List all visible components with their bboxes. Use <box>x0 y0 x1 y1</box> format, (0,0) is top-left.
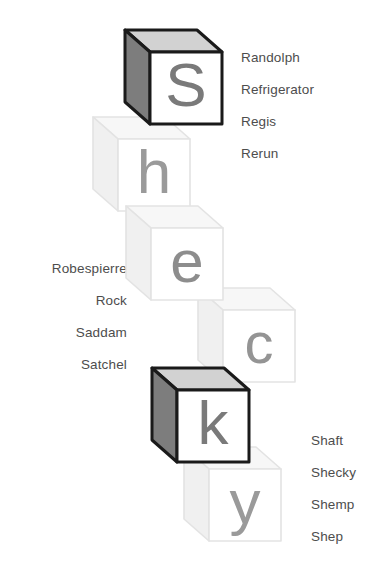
letter-block-s: S <box>125 30 225 130</box>
word-item: Regis <box>241 106 314 138</box>
word-item: Saddam <box>0 317 127 349</box>
block-letter: S <box>165 50 206 119</box>
block-letter: y <box>230 467 261 536</box>
word-item: Randolph <box>241 42 314 74</box>
letter-block-k: k <box>152 368 252 468</box>
word-item: Shep <box>311 521 356 553</box>
word-item: Robespierre <box>0 253 127 285</box>
block-letter: k <box>198 388 230 457</box>
word-list-r-names: RandolphRefrigeratorRegisRerun <box>241 42 314 170</box>
letter-block-e: e <box>126 206 226 306</box>
block-letter: c <box>245 310 274 375</box>
word-item: Rerun <box>241 138 314 170</box>
block-letter: h <box>137 137 171 206</box>
word-item: Shemp <box>311 489 356 521</box>
word-item: Rock <box>0 285 127 317</box>
word-list-sh-names: ShaftSheckyShempShep <box>311 425 356 553</box>
block-letter: e <box>170 228 203 295</box>
word-list-ro-sa-names: RobespierreRockSaddamSatchel <box>0 253 127 381</box>
illustration-canvas: cyheSk RandolphRefrigeratorRegisRerun Ro… <box>0 0 386 570</box>
word-item: Shecky <box>311 457 356 489</box>
word-item: Refrigerator <box>241 74 314 106</box>
word-item: Shaft <box>311 425 356 457</box>
word-item: Satchel <box>0 349 127 381</box>
